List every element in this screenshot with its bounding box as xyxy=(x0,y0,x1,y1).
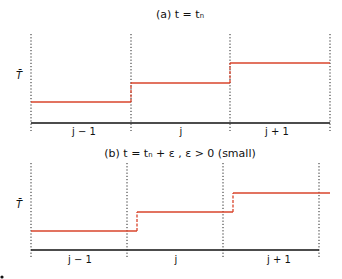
y-axis-label: T̄ xyxy=(16,69,23,81)
finite-volume-diagram: (a) t = tₙT̄j − 1jj + 1(b) t = tₙ + ε , … xyxy=(0,0,342,279)
cell-label: j − 1 xyxy=(71,126,96,137)
corner-mark xyxy=(0,275,3,278)
panel-title: (a) t = tₙ xyxy=(156,8,204,21)
panel-a: (a) t = tₙT̄j − 1jj + 1 xyxy=(16,8,330,137)
cell-label: j + 1 xyxy=(264,126,289,137)
cell-label: j + 1 xyxy=(266,254,291,265)
panel-b: (b) t = tₙ + ε , ε > 0 (small)T̄j − 1jj … xyxy=(16,147,330,265)
y-axis-label: T̄ xyxy=(16,198,23,210)
cell-label: j xyxy=(179,126,183,137)
cell-label: j − 1 xyxy=(67,254,92,265)
cell-label: j xyxy=(174,254,178,265)
panel-title: (b) t = tₙ + ε , ε > 0 (small) xyxy=(104,147,255,160)
